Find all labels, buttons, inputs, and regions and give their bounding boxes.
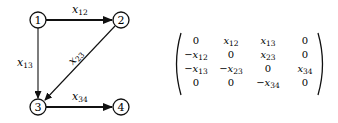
node-1-label: 1 [35,14,42,27]
matrix-right-paren [318,33,323,95]
node-1: 1 [30,12,46,28]
edge-label-x34: x34 [72,90,88,104]
matrix-cell: −x12 [184,49,208,62]
matrix: 0 x12 x13 0 −x12 0 x23 0 −x13 −x23 0 x34… [184,35,313,90]
matrix-cell: x23 [260,49,275,62]
edge-label-x13: x13 [17,56,33,70]
matrix-cell: 0 [302,49,308,60]
node-4-label: 4 [118,101,125,114]
matrix-cell: 0 [193,35,199,46]
matrix-cell: 0 [193,77,199,88]
matrix-cell: −x34 [256,77,280,90]
matrix-cell: 0 [228,77,234,88]
node-4: 4 [113,99,129,115]
node-2: 2 [113,12,129,28]
matrix-cell: x12 [223,35,238,48]
node-3-label: 3 [35,101,42,114]
edge-label-x12: x12 [72,3,88,17]
matrix-cell: −x13 [184,63,208,76]
matrix-cell: x34 [297,63,312,76]
matrix-cell: 0 [302,35,308,46]
matrix-cell: x13 [260,35,275,48]
node-3: 3 [30,99,46,115]
matrix-left-paren [177,33,182,95]
matrix-cell: 0 [265,63,271,74]
matrix-cell: −x23 [219,63,243,76]
matrix-cell: 0 [302,77,308,88]
edge-label-x23: x23 [66,47,87,68]
diagram-canvas: 1 2 3 4 x12 x13 x23 x34 0 x12 x13 0 −x12… [0,0,338,123]
matrix-cell: 0 [228,49,234,60]
node-2-label: 2 [118,14,125,27]
